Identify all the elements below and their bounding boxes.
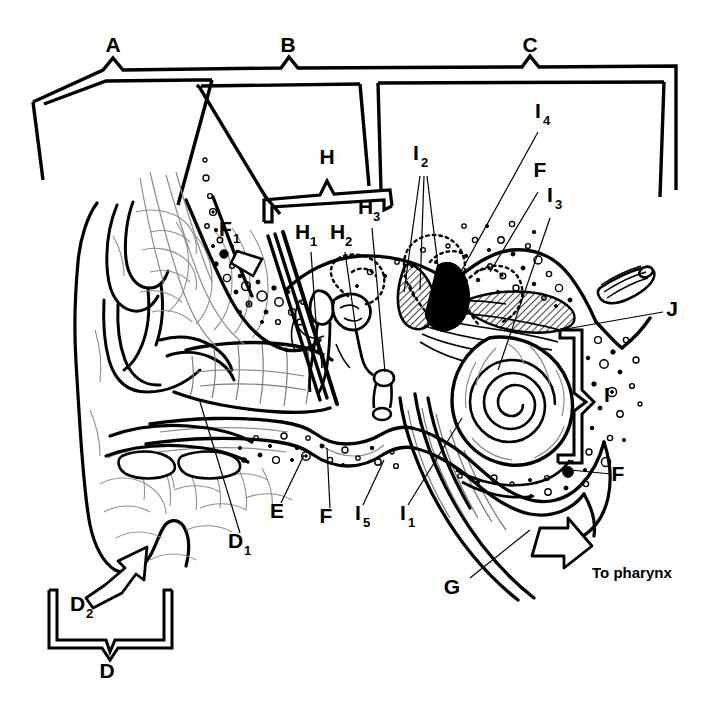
label-F-top: F: [534, 158, 547, 181]
svg-text:4: 4: [543, 113, 551, 128]
svg-text:H: H: [330, 220, 345, 243]
ear-anatomy-figure: A B C D D 1 D 2 E F F 1 F F G H H 1 H 2: [0, 0, 710, 718]
label-E: E: [270, 499, 284, 522]
svg-text:I: I: [535, 99, 541, 122]
label-F-right: F: [612, 462, 625, 485]
svg-text:I: I: [355, 501, 361, 524]
ear-cross-section-illustration: A B C D D 1 D 2 E F F 1 F F G H H 1 H 2: [0, 0, 710, 718]
svg-text:1: 1: [233, 231, 240, 246]
label-J: J: [666, 297, 678, 320]
label-I: I: [604, 383, 610, 406]
svg-text:1: 1: [244, 543, 251, 558]
svg-text:I: I: [413, 141, 419, 164]
annotation-to-pharynx: To pharynx: [592, 564, 672, 581]
svg-text:I: I: [400, 501, 406, 524]
svg-text:3: 3: [555, 197, 562, 212]
svg-text:3: 3: [373, 209, 380, 224]
label-B: B: [280, 33, 295, 56]
svg-text:5: 5: [363, 515, 370, 530]
svg-text:D: D: [70, 592, 85, 615]
label-A: A: [105, 33, 120, 56]
svg-text:H: H: [295, 220, 310, 243]
svg-text:1: 1: [310, 234, 317, 249]
label-F-bottom: F: [320, 504, 333, 527]
svg-text:2: 2: [345, 234, 352, 249]
svg-text:H: H: [358, 195, 373, 218]
svg-text:D: D: [228, 529, 243, 552]
figure-background: [0, 0, 710, 718]
svg-text:1: 1: [408, 515, 415, 530]
label-D: D: [99, 659, 114, 682]
label-G: G: [444, 575, 460, 598]
label-C: C: [522, 33, 537, 56]
bracket-b-inner: [201, 84, 360, 86]
svg-text:2: 2: [421, 155, 428, 170]
svg-text:2: 2: [86, 606, 93, 621]
svg-text:F: F: [219, 217, 232, 240]
svg-text:I: I: [547, 183, 553, 206]
bracket-c-inner: [378, 82, 664, 83]
label-H: H: [319, 145, 334, 168]
